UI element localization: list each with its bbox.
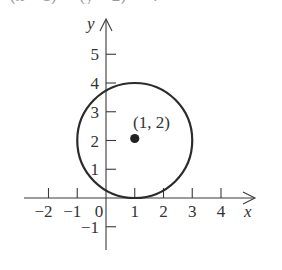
y-tick-label: 3	[91, 103, 100, 122]
x-axis-label: x	[243, 202, 252, 221]
y-tick-label: 5	[91, 45, 100, 64]
x-tick-label: 1	[131, 202, 140, 221]
x-tick-label: 2	[159, 202, 168, 221]
coordinate-plot: −2 −1 0 1 2 3 4 −1 1 2 3 4 5 x y (1, 2)	[0, 0, 282, 270]
y-ticks	[106, 54, 116, 227]
x-tick-label: −1	[63, 202, 81, 221]
y-tick-label: −1	[81, 218, 99, 237]
x-tick-label: 4	[217, 202, 226, 221]
center-point-label: (1, 2)	[133, 113, 170, 132]
x-tick-label: 3	[188, 202, 197, 221]
y-tick-label: 2	[91, 132, 100, 151]
y-tick-label: 4	[91, 74, 100, 93]
center-point	[130, 134, 139, 143]
y-axis-label: y	[85, 14, 95, 33]
y-tick-label: 1	[91, 160, 100, 179]
x-ticks	[49, 188, 222, 198]
x-tick-label: −2	[34, 202, 52, 221]
